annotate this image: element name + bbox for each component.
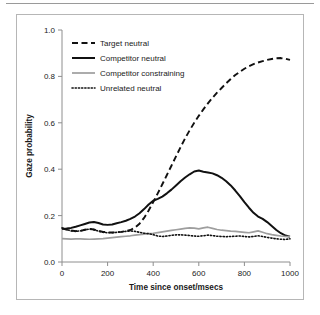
- legend-label-competitor-neutral: Competitor neutral: [100, 54, 166, 63]
- legend-label-competitor-constraining: Competitor constraining: [100, 69, 184, 78]
- y-tick-label-0.6: 0.6: [44, 119, 56, 128]
- series-line-competitor-neutral: [62, 171, 290, 237]
- y-axis-title: Gaze probability: [25, 114, 34, 178]
- axes-group: 020040060080010000.00.20.40.60.81.0: [44, 26, 300, 278]
- series-line-target-neutral: [62, 58, 290, 232]
- x-tick-label-600: 600: [192, 269, 206, 278]
- y-tick-label-1.0: 1.0: [44, 26, 56, 35]
- legend-label-unrelated-neutral: Unrelated neutral: [100, 84, 162, 93]
- legend-label-target-neutral: Target neutral: [100, 39, 149, 48]
- x-tick-label-200: 200: [101, 269, 115, 278]
- x-tick-label-800: 800: [238, 269, 252, 278]
- y-tick-label-0.0: 0.0: [44, 258, 56, 267]
- series-line-competitor-constraining: [62, 227, 290, 239]
- chart-legend: Target neutralCompetitor neutralCompetit…: [72, 39, 184, 93]
- x-axis-title: Time since onset/msecs: [129, 283, 223, 292]
- x-tick-label-0: 0: [60, 269, 65, 278]
- x-tick-label-400: 400: [147, 269, 161, 278]
- y-tick-label-0.8: 0.8: [44, 72, 56, 81]
- data-series-group: [62, 58, 290, 239]
- figure-root: 020040060080010000.00.20.40.60.81.0 Targ…: [0, 0, 320, 315]
- gaze-probability-line-chart: 020040060080010000.00.20.40.60.81.0 Targ…: [0, 0, 320, 315]
- y-tick-label-0.4: 0.4: [44, 165, 56, 174]
- x-tick-label-1000: 1000: [281, 269, 299, 278]
- y-tick-label-0.2: 0.2: [44, 212, 56, 221]
